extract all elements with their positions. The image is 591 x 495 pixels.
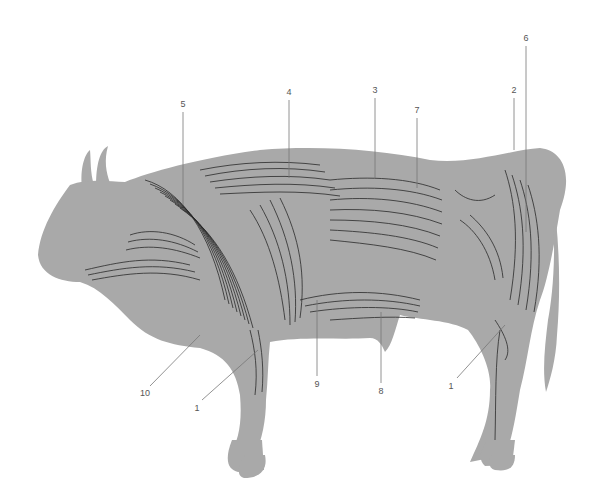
cow-illustration xyxy=(0,0,591,495)
label-1-rear: 1 xyxy=(448,382,453,391)
label-1-front: 1 xyxy=(194,404,199,413)
label-6: 6 xyxy=(523,34,528,43)
label-3: 3 xyxy=(372,86,377,95)
label-2: 2 xyxy=(511,86,516,95)
label-4: 4 xyxy=(286,88,291,97)
label-7: 7 xyxy=(414,106,419,115)
label-5: 5 xyxy=(180,100,185,109)
cow-silhouette xyxy=(38,146,566,478)
label-8: 8 xyxy=(378,387,383,396)
label-10: 10 xyxy=(140,389,150,398)
cow-muscle-diagram: 1 1 2 3 4 5 6 7 8 9 10 xyxy=(0,0,591,495)
label-9: 9 xyxy=(314,380,319,389)
